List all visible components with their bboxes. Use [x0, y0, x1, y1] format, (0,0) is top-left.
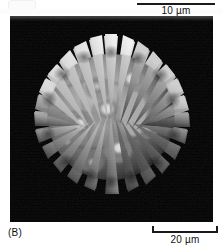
- panel-label: (B): [8, 227, 22, 239]
- bottom-scale-bar-tick-right: [216, 226, 218, 233]
- top-scale-bar: 10 µm: [137, 1, 215, 17]
- pollen-grain-illustration: [10, 16, 213, 222]
- bottom-scale-bar-rule: [152, 231, 218, 233]
- bottom-scale-bar: 20 µm: [152, 226, 218, 246]
- plate-top-glow: [10, 16, 213, 21]
- micrograph-image: [10, 16, 213, 222]
- bottom-scale-bar-label: 20 µm: [148, 234, 222, 246]
- figure-panel: 10 µm: [0, 0, 223, 248]
